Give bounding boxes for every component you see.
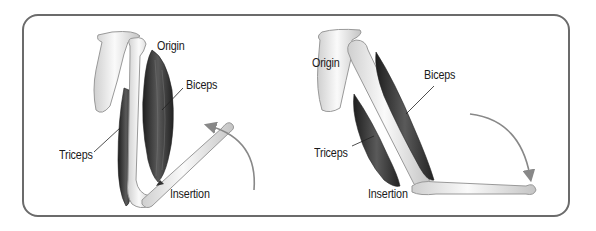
label-biceps-right: Biceps	[424, 69, 455, 82]
left-arm-flexed	[94, 32, 254, 208]
label-origin-left: Origin	[157, 40, 185, 53]
label-insertion-right: Insertion	[368, 188, 408, 201]
label-triceps-left: Triceps	[59, 149, 93, 162]
label-triceps-right: Triceps	[314, 147, 348, 160]
muscle-diagram-art	[0, 0, 596, 231]
label-origin-right: Origin	[312, 57, 340, 70]
extend-arrow	[470, 114, 530, 176]
forearm	[412, 182, 536, 195]
biceps	[143, 50, 174, 182]
label-biceps-left: Biceps	[186, 79, 217, 92]
right-arm-extended	[318, 29, 537, 194]
label-insertion-left: Insertion	[170, 188, 210, 201]
